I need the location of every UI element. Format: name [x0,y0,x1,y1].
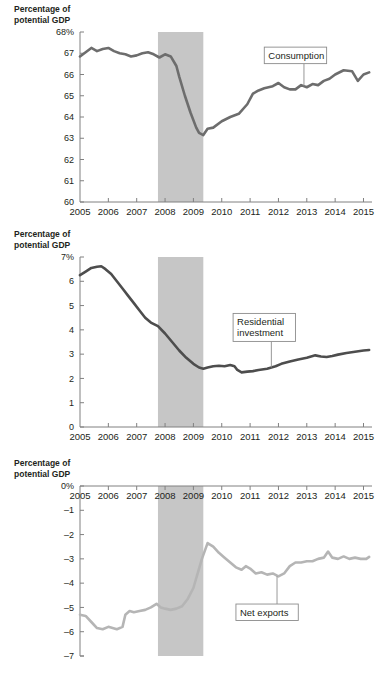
x-tick-label: 2012 [268,431,289,442]
x-tick-label: 2012 [268,206,289,217]
y-tick-label: –7 [64,651,74,661]
x-tick-label: 2011 [240,206,260,217]
x-tick-label: 2012 [268,490,289,501]
y-tick-label: –3 [64,554,74,564]
y-tick-label: 66 [64,70,74,80]
y-axis-title-line1: Percentage of [14,229,70,239]
x-tick-label: 2008 [154,490,175,501]
recession-shaded-band [158,257,203,427]
x-tick-label: 2009 [183,206,204,217]
y-tick-label: 4 [69,325,74,335]
x-tick-label: 2006 [98,431,119,442]
y-tick-label: 65 [64,91,74,101]
x-tick-label: 2005 [69,490,90,501]
x-tick-label: 2015 [353,431,374,442]
chart-panel-residential-investment: Percentage ofpotential GDP7%654321020052… [0,225,382,450]
chart-panel-net-exports: Percentage ofpotential GDP0%–1–2–3–4–5–6… [0,450,382,679]
consumption-chart-svg: Percentage ofpotential GDP68%67666564636… [0,0,382,225]
y-axis-title-line1: Percentage of [14,4,70,14]
x-tick-label: 2010 [211,490,232,501]
x-tick-label: 2011 [240,431,260,442]
y-axis-title-line2: potential GDP [14,469,71,479]
y-tick-label: 3 [69,349,74,359]
y-tick-label: 7% [61,252,74,262]
residential-investment-chart-svg: Percentage ofpotential GDP7%654321020052… [0,225,382,450]
y-tick-label: 67 [64,48,74,58]
x-tick-label: 2005 [69,431,90,442]
x-tick-label: 2006 [98,490,119,501]
callout-label: Residential [237,316,284,327]
y-tick-label: –5 [64,603,74,613]
x-tick-label: 2013 [296,206,317,217]
y-axis-title-line2: potential GDP [14,15,71,25]
x-tick-label: 2006 [98,206,119,217]
series-line-residential-investment [80,266,369,372]
y-tick-label: 68% [56,27,74,37]
recession-shaded-band [158,486,203,656]
y-tick-label: –1 [64,505,74,515]
x-tick-label: 2011 [240,490,260,501]
y-tick-label: 62 [64,155,74,165]
y-tick-label: 63 [64,133,74,143]
x-tick-label: 2010 [211,206,232,217]
y-tick-label: 1 [69,398,74,408]
x-tick-label: 2014 [325,490,346,501]
net-exports-chart-svg: Percentage ofpotential GDP0%–1–2–3–4–5–6… [0,450,382,679]
x-tick-label: 2015 [353,206,374,217]
callout-label: Net exports [240,607,289,618]
x-tick-label: 2010 [211,431,232,442]
y-axis-title-line2: potential GDP [14,240,71,250]
x-tick-label: 2013 [296,490,317,501]
x-tick-label: 2009 [183,431,204,442]
x-tick-label: 2007 [126,206,147,217]
y-tick-label: –6 [64,627,74,637]
y-tick-label: –4 [64,578,74,588]
x-tick-label: 2008 [154,206,175,217]
chart-panel-consumption: Percentage ofpotential GDP68%67666564636… [0,0,382,225]
y-tick-label: 61 [64,176,74,186]
y-tick-label: 2 [69,374,74,384]
series-line-net-exports [80,543,369,629]
y-tick-label: 64 [64,112,74,122]
y-tick-label: 6 [69,276,74,286]
x-tick-label: 2007 [126,490,147,501]
x-tick-label: 2015 [353,490,374,501]
x-tick-label: 2009 [183,490,204,501]
callout-label: Consumption [268,50,324,61]
x-tick-label: 2013 [296,431,317,442]
x-tick-label: 2005 [69,206,90,217]
x-tick-label: 2014 [325,206,346,217]
recession-shaded-band [158,32,203,202]
x-tick-label: 2007 [126,431,147,442]
y-tick-label: –2 [64,530,74,540]
y-tick-label: 5 [69,301,74,311]
x-tick-label: 2014 [325,431,346,442]
y-axis-title-line1: Percentage of [14,458,70,468]
x-tick-label: 2008 [154,431,175,442]
callout-label: investment [237,327,283,338]
